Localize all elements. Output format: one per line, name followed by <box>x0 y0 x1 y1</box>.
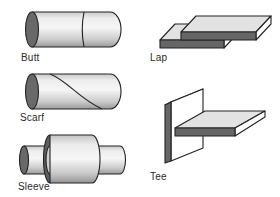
tee-joint-figure <box>160 88 275 168</box>
sleeve-joint-figure <box>16 133 128 185</box>
lap-joint-label: Lap <box>150 52 167 63</box>
sleeve-left-pipe-end-face <box>20 146 29 174</box>
scarf-cylinder-end-face <box>26 74 39 109</box>
tee-joint-drawing <box>160 88 275 168</box>
scarf-joint-drawing <box>22 72 127 112</box>
lap-joint-drawing <box>148 8 278 56</box>
scarf-joint-label: Scarf <box>20 112 44 123</box>
lap-joint-figure <box>148 8 278 56</box>
scarf-joint-figure <box>22 72 127 112</box>
tee-joint-label: Tee <box>150 171 167 182</box>
butt-cylinder-end-face <box>26 12 39 47</box>
scarf-cylinder-body <box>32 74 121 109</box>
sleeve-joint-drawing <box>16 133 128 185</box>
sleeve-joint-label: Sleeve <box>18 181 50 192</box>
butt-cylinder-body <box>32 12 121 47</box>
butt-joint-drawing <box>22 10 127 50</box>
sleeve-collar-body <box>50 135 100 183</box>
butt-joint-figure <box>22 10 127 50</box>
lap-top-plate <box>181 16 271 40</box>
joint-types-diagram: Butt Lap <box>0 0 280 197</box>
butt-joint-label: Butt <box>21 52 40 63</box>
